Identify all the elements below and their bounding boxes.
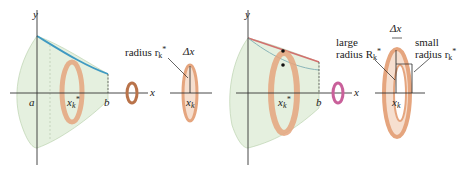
left-y-label: y bbox=[32, 8, 38, 20]
washer-delta-x: Δx bbox=[389, 22, 401, 34]
right-label-b: b bbox=[316, 96, 322, 108]
right-y-label: y bbox=[244, 8, 250, 20]
left-x-label: x bbox=[149, 86, 155, 98]
right-x-label: x bbox=[353, 86, 359, 98]
small-radius-line1: small bbox=[415, 36, 439, 48]
large-radius-line1: large bbox=[336, 36, 358, 48]
radius-label: radius rk* bbox=[125, 45, 166, 60]
small-radius-line2: radius rk* bbox=[415, 47, 456, 62]
large-radius-line2: radius Rk* bbox=[336, 47, 381, 62]
delta-x-label: Δx bbox=[182, 45, 194, 57]
diagram-canvas: y x a b xk* radius rk* Δx xk y x b xk* bbox=[0, 0, 469, 172]
label-a: a bbox=[29, 96, 35, 108]
left-solid bbox=[17, 36, 108, 148]
label-b: b bbox=[104, 96, 110, 108]
disk bbox=[168, 58, 212, 121]
